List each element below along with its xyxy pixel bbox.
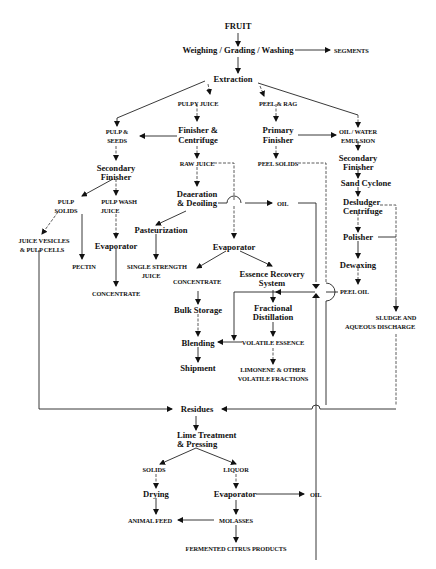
node-desludger-centrifuge-line2: Centrifuge: [343, 206, 383, 216]
node-fermented-citrus-products: FERMENTED CITRUS PRODUCTS: [186, 545, 287, 552]
node-solids: SOLIDS: [143, 466, 166, 473]
node-peel-oil: PEEL OIL: [340, 288, 369, 295]
node-polisher: Polisher: [343, 232, 373, 242]
node-oil-water-emulsion-line2: EMULSION: [341, 137, 375, 144]
node-labels: FRUIT Weighing / Grading / Washing SEGME…: [19, 21, 417, 552]
node-juice-vesicles-line2: & PULP CELLS: [20, 246, 65, 253]
node-oil-water-emulsion: OIL / WATER: [339, 128, 378, 135]
node-evaporator-left: Evaporator: [95, 241, 138, 251]
node-pulp-seeds: PULP &: [106, 128, 129, 135]
node-secondary-finisher-left-line2: Finisher: [101, 172, 132, 182]
node-drying: Drying: [143, 489, 169, 499]
node-sludge-aqueous: SLUDGE AND: [376, 314, 417, 321]
node-molasses: MOLASSES: [219, 517, 254, 524]
node-peel-rag: PEEL & RAG: [259, 100, 297, 107]
node-fractional-distillation-line2: Distillation: [253, 312, 294, 322]
node-liquor: LIQUOR: [223, 466, 249, 473]
node-pulp-solids: PULP: [58, 198, 74, 205]
node-shipment: Shipment: [180, 363, 215, 373]
node-weighing: Weighing / Grading / Washing: [182, 45, 294, 55]
node-finisher-centrifuge-line2: Centrifuge: [178, 135, 218, 145]
node-pasteurization: Pasteurization: [135, 225, 188, 235]
node-segments: SEGMENTS: [334, 47, 369, 54]
node-evaporator-bottom: Evaporator: [214, 489, 257, 499]
node-sand-cyclone: Sand Cyclone: [341, 178, 392, 188]
node-residues: Residues: [181, 404, 214, 414]
node-essence-recovery-line2: System: [259, 278, 286, 288]
node-oil-bottom: OIL: [310, 491, 321, 498]
node-pectin: PECTIN: [72, 263, 96, 270]
node-concentrate-left: CONCENTRATE: [92, 290, 140, 297]
node-single-strength-juice-line2: JUICE: [142, 272, 161, 279]
node-oil-top: OIL: [277, 200, 288, 207]
node-evaporator-mid: Evaporator: [213, 242, 256, 252]
node-raw-juice: RAW JUICE: [180, 160, 215, 167]
node-extraction: Extraction: [213, 74, 252, 84]
node-primary-finisher: Primary: [262, 125, 294, 135]
citrus-processing-flow-diagram: FRUIT Weighing / Grading / Washing SEGME…: [0, 0, 436, 569]
node-limonene: LIMONENE & OTHER: [240, 366, 306, 373]
node-pulp-wash-juice-line2: JUICE: [101, 207, 120, 214]
node-single-strength-juice: SINGLE STRENGTH: [127, 263, 187, 270]
node-secondary-finisher-right-line2: Finisher: [343, 162, 374, 172]
node-pulp-solids-line2: SOLIDS: [55, 207, 78, 214]
node-juice-vesicles: JUICE VESICLES: [19, 237, 70, 244]
node-sludge-aqueous-line2: AQUEOUS DISCHARGE: [345, 323, 415, 330]
node-finisher-centrifuge: Finisher &: [178, 125, 218, 135]
node-peel-solids: PEEL SOLIDS: [258, 160, 299, 167]
node-pulp-seeds-line2: SEEDS: [107, 137, 127, 144]
node-bulk-storage: Bulk Storage: [174, 305, 222, 315]
node-pulpy-juice: PULPY JUICE: [178, 100, 219, 107]
node-blending: Blending: [182, 338, 216, 348]
node-fruit: FRUIT: [225, 21, 252, 31]
node-dewaxing: Dewaxing: [340, 260, 377, 270]
node-animal-feed: ANIMAL FEED: [128, 517, 172, 524]
node-pulp-wash-juice: PULP WASH: [101, 198, 137, 205]
node-volatile-essence: VOLATILE ESSENCE: [242, 339, 304, 346]
node-primary-finisher-line2: Finisher: [263, 135, 294, 145]
node-concentrate-mid: CONCENTRATE: [173, 278, 221, 285]
node-deaeration-deoiling-line2: & Deoiling: [177, 198, 218, 208]
node-lime-treatment-line2: & Pressing: [177, 439, 218, 449]
node-limonene-line2: VOLATILE FRACTIONS: [238, 375, 309, 382]
